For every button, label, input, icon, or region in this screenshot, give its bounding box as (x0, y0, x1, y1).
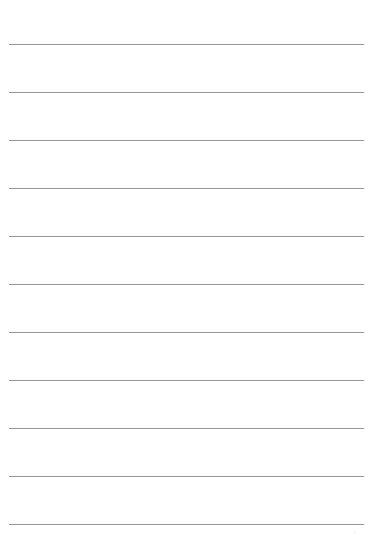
ruled-line (9, 428, 364, 429)
ruled-line (9, 188, 364, 189)
ruled-line (9, 92, 364, 93)
lined-page: · (0, 0, 375, 535)
ruled-line (9, 44, 364, 45)
ruled-line (9, 380, 364, 381)
ruled-line (9, 476, 364, 477)
ruled-line (9, 284, 364, 285)
ruled-line (9, 236, 364, 237)
ruled-line (9, 524, 364, 525)
ruled-line (9, 332, 364, 333)
page-mark: · (354, 529, 356, 535)
ruled-line (9, 140, 364, 141)
